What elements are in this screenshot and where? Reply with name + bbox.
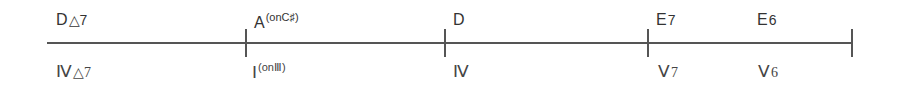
chord-quality: 7: [668, 12, 676, 28]
chord-name-3: D: [453, 11, 465, 29]
roman-degree: Ⅰ: [252, 63, 257, 82]
roman-degree: Ⅳ: [453, 62, 469, 81]
roman-degree: Ⅴ: [658, 62, 670, 81]
roman-numeral-5: Ⅴ6: [758, 61, 778, 82]
chord-name-2: A(onC♯): [254, 11, 299, 32]
roman-numeral-1: Ⅳ△7: [56, 61, 91, 82]
chord-root: D: [453, 11, 465, 28]
chord-name-5: E6: [757, 11, 776, 29]
roman-numeral-2: Ⅰ(onⅢ): [252, 61, 286, 83]
chord-root: A: [254, 14, 265, 31]
roman-degree: Ⅴ: [758, 62, 770, 81]
roman-numeral-4: Ⅴ7: [658, 61, 678, 82]
chord-name-4: E7: [656, 11, 675, 29]
chord-name-1: D△7: [56, 11, 87, 29]
chord-quality: △7: [69, 12, 88, 28]
roman-quality: 6: [771, 65, 778, 80]
bar-line-1: [245, 29, 247, 57]
bar-line-3: [647, 29, 649, 57]
roman-bass-degree: (onⅢ): [258, 61, 286, 73]
roman-quality: 7: [671, 65, 678, 80]
roman-numeral-3: Ⅳ: [453, 61, 469, 82]
bar-line-2: [444, 29, 446, 57]
roman-quality: △7: [73, 65, 91, 80]
roman-degree: Ⅳ: [56, 62, 72, 81]
chord-root: E: [757, 11, 768, 28]
chord-root: E: [656, 11, 667, 28]
chord-quality: 6: [769, 12, 777, 28]
chord-bass-note: (onC♯): [266, 11, 299, 23]
bar-line-end: [851, 29, 853, 57]
staff-line: [47, 42, 853, 44]
chord-root: D: [56, 11, 68, 28]
